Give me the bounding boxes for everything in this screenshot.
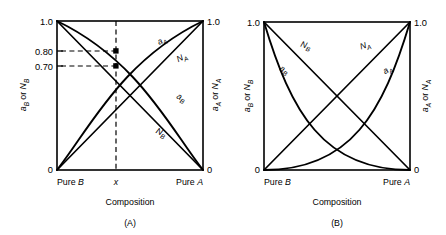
panel-b-plot: 1.0 0 1.0 0 aB or NB aA or NA NB [223,0,446,235]
marker-point-080 [113,48,118,53]
ytick-bottom-left-b: 0 [255,165,260,175]
svg-text:aB: aB [277,63,291,78]
panel-a-plot: 1.0 0.80 0.70 0 1.0 0 aB or NB aA or NA [0,0,223,235]
curve-label-na-a: NA [175,51,189,66]
yaxis-title-right-a: aA or NA [210,79,222,112]
curve-label-nb-b: NB [299,39,313,53]
svg-text:NA: NA [359,39,372,53]
xtick-pure-b-a: Pure B [57,177,84,187]
xtick-pure-a-a-word: Pure [176,177,195,187]
xtick-pure-b-b-word: Pure [264,177,283,187]
svg-text:NB: NB [299,39,313,53]
marker-point-070 [113,63,118,68]
ytick-bottom-left-a: 0 [48,165,53,175]
yaxis-right-or-b: or [420,90,430,103]
xtick-pure-a-b: Pure A [383,177,410,187]
xaxis-title-a: Composition [106,197,155,207]
yaxis-title-right-b: aA or NA [420,80,432,113]
ytick-bottom-right-b: 0 [414,165,419,175]
yaxis-left-n-sub: B [23,78,30,83]
xtick-pure-a-a: Pure A [176,177,203,187]
svg-text:aA or NA: aA or NA [420,80,432,113]
svg-text:NA: NA [175,51,189,66]
yaxis-right-n-sub-b: A [425,80,432,85]
yaxis-left-n-sub-b: B [247,79,254,84]
xaxis-title-b: Composition [313,197,362,207]
ytick-top-right-a: 1.0 [207,17,220,27]
panel-caption-a: (A) [124,218,136,228]
xtick-pure-b-a-word: Pure [57,177,76,187]
panel-b: 1.0 0 1.0 0 aB or NB aA or NA NB [223,0,446,235]
ytick-080-a: 0.80 [35,47,53,57]
yaxis-right-n-sub: A [215,79,222,84]
yaxis-title-left-b: aB or NB [242,79,254,112]
yaxis-left-or-b: or [242,90,252,103]
svg-text:aB or NB: aB or NB [242,79,254,112]
svg-text:aA or NA: aA or NA [210,79,222,112]
curve-label-ab-a: aB [174,91,188,106]
panel-a: 1.0 0.80 0.70 0 1.0 0 aB or NB aA or NA [0,0,223,235]
yaxis-right-a-or: or [210,89,220,102]
ytick-top-left-a: 1.0 [40,17,53,27]
curve-label-na-b: NA [359,39,372,53]
xtick-pure-b-b-species: B [285,177,291,187]
curve-label-nb-b-sub: B [305,45,312,53]
ytick-bottom-right-a: 0 [207,165,212,175]
xtick-pure-b-a-species: B [78,177,84,187]
ytick-top-right-b: 1.0 [414,18,427,28]
yaxis-title-left-a: aB or NB [18,78,30,111]
yaxis-left-a-or: or [18,89,28,102]
figure-activity-composition: 1.0 0.80 0.70 0 1.0 0 aB or NB aA or NA [0,0,446,235]
xtick-x-a: x [113,177,119,187]
svg-text:aA: aA [381,63,395,77]
xtick-pure-a-b-species: A [403,177,410,187]
ytick-070-a: 0.70 [35,62,53,72]
panel-caption-b: (B) [331,218,343,228]
xtick-pure-a-b-word: Pure [383,177,402,187]
curve-label-aa-b: aA [381,63,395,77]
xtick-pure-b-b: Pure B [264,177,291,187]
svg-text:aB: aB [174,91,188,106]
svg-text:aB or NB: aB or NB [18,78,30,111]
ytick-top-left-b: 1.0 [247,18,260,28]
curve-label-ab-b: aB [277,63,291,78]
xtick-pure-a-a-species: A [196,177,203,187]
